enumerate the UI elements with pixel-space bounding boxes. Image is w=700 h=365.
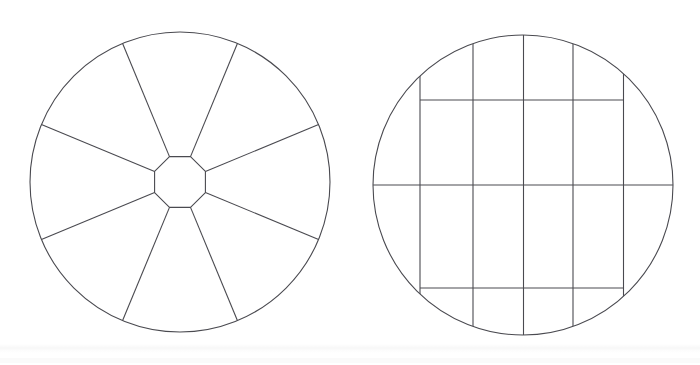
figure-sheet (0, 0, 700, 365)
sheet-background (0, 0, 700, 365)
figures-canvas (0, 0, 700, 365)
